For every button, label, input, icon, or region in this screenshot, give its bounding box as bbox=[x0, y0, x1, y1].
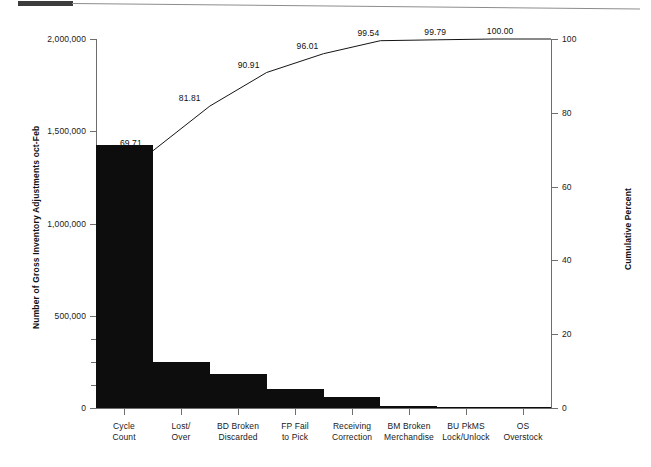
x-axis-category-label: Lost/Over bbox=[172, 421, 191, 442]
x-axis-category-label: BM BrokenMerchandise bbox=[384, 421, 434, 442]
cumulative-point-label: 99.79 bbox=[424, 27, 446, 37]
x-axis-category-label: BD BrokenDiscarded bbox=[217, 421, 259, 442]
cumulative-point-label: 90.91 bbox=[238, 60, 260, 70]
cumulative-point-label: 69.71 bbox=[120, 138, 142, 148]
x-axis-category-label-line: BD Broken bbox=[217, 421, 259, 432]
x-axis-category-label-line: FP Fail bbox=[281, 421, 308, 432]
x-axis-category-label-line: OS bbox=[503, 421, 542, 432]
x-axis-category-label-line: BU PkMS bbox=[442, 421, 489, 432]
x-axis-category-label-line: Lost/ bbox=[172, 421, 191, 432]
x-axis-category-label-line: Correction bbox=[332, 432, 372, 443]
x-axis-category-label: OSOverstock bbox=[503, 421, 542, 442]
x-axis-category-label-line: Overstock bbox=[503, 432, 542, 443]
x-axis-category-label-line: Merchandise bbox=[384, 432, 434, 443]
x-axis-category-label-line: Count bbox=[112, 432, 135, 443]
x-axis-category-label-line: Discarded bbox=[217, 432, 259, 443]
cumulative-point-label: 81.81 bbox=[179, 93, 201, 103]
x-axis-category-label: BU PkMSLock/Unlock bbox=[442, 421, 489, 442]
x-axis-category-label: CycleCount bbox=[112, 421, 135, 442]
cumulative-line bbox=[0, 0, 651, 467]
x-axis-category-label: FP Failto Pick bbox=[281, 421, 308, 442]
x-axis-category-label-line: Cycle bbox=[112, 421, 135, 432]
x-axis-category-label: ReceivingCorrection bbox=[332, 421, 372, 442]
pareto-chart: Number of Gross Inventory Adjustments oc… bbox=[0, 0, 651, 467]
x-axis-category-label-line: Over bbox=[172, 432, 191, 443]
x-axis-category-label-line: Lock/Unlock bbox=[442, 432, 489, 443]
x-axis-category-label-line: BM Broken bbox=[384, 421, 434, 432]
cumulative-point-label: 100.00 bbox=[487, 26, 514, 36]
x-axis-category-label-line: to Pick bbox=[281, 432, 308, 443]
cumulative-polyline bbox=[153, 39, 551, 151]
cumulative-point-label: 96.01 bbox=[297, 41, 319, 51]
x-axis-category-label-line: Receiving bbox=[332, 421, 372, 432]
cumulative-point-label: 99.54 bbox=[357, 28, 379, 38]
